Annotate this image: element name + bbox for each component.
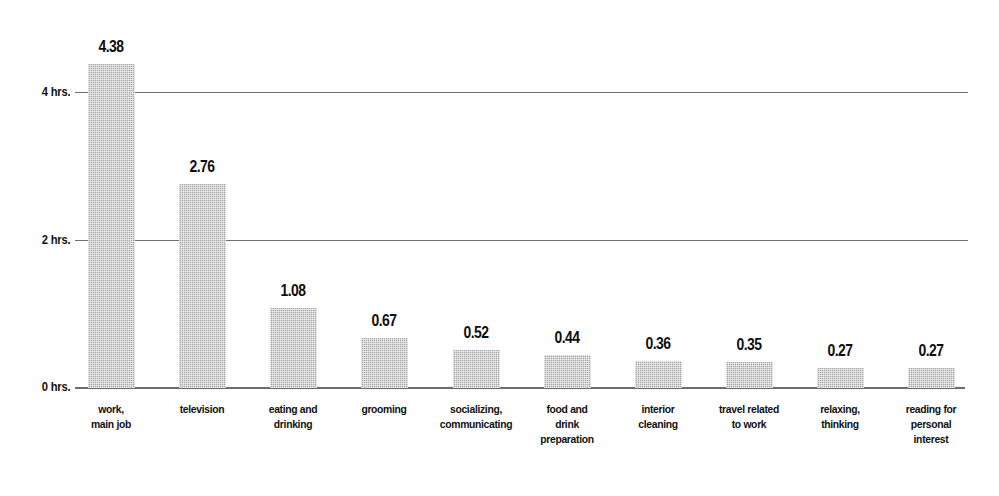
bar xyxy=(453,350,500,388)
ytick-label-2hrs: 2 hrs. xyxy=(41,232,70,247)
category-label-line: main job xyxy=(66,417,156,432)
bar xyxy=(817,368,864,388)
bar xyxy=(726,362,773,388)
gridline-4hrs xyxy=(88,92,968,93)
bar xyxy=(908,368,955,388)
category-label: socializing,communicating xyxy=(431,402,521,432)
bar xyxy=(361,338,408,388)
ytick-label-0hrs: 0 hrs. xyxy=(41,379,70,394)
bar xyxy=(635,361,682,388)
category-label-line: relaxing, xyxy=(795,402,885,417)
category-label-line: grooming xyxy=(339,402,429,417)
bar-value-label: 0.67 xyxy=(345,312,423,330)
bar-value-label: 0.36 xyxy=(619,335,697,353)
bar-chart: 4 hrs. 2 hrs. 0 hrs. 4.38 2.76 1.08 0.67… xyxy=(0,0,999,496)
bar-value-label: 4.38 xyxy=(72,38,150,56)
bar xyxy=(179,184,226,388)
category-label-line: drinking xyxy=(248,417,338,432)
category-label-line: eating and xyxy=(248,402,338,417)
ytick-mark-4 xyxy=(75,92,88,93)
category-label-line: personal xyxy=(886,417,976,432)
bar-value-label: 0.27 xyxy=(801,342,879,360)
category-label: work,main job xyxy=(66,402,156,432)
category-label-line: socializing, xyxy=(431,402,521,417)
category-label: eating anddrinking xyxy=(248,402,338,432)
category-label-line: communicating xyxy=(431,417,521,432)
bar xyxy=(544,355,591,388)
bar-value-label: 0.27 xyxy=(892,342,970,360)
ytick-mark-2 xyxy=(75,240,88,241)
category-label-line: television xyxy=(157,402,247,417)
category-label-line: interior xyxy=(613,402,703,417)
category-label: television xyxy=(157,402,247,417)
category-label: grooming xyxy=(339,402,429,417)
plot-area: 4 hrs. 2 hrs. 0 hrs. 4.38 2.76 1.08 0.67… xyxy=(0,0,999,496)
category-label-line: to work xyxy=(704,417,794,432)
bar xyxy=(88,64,135,388)
bar-value-label: 0.52 xyxy=(437,324,515,342)
category-label-line: thinking xyxy=(795,417,885,432)
category-label-line: cleaning xyxy=(613,417,703,432)
category-label: interiorcleaning xyxy=(613,402,703,432)
ytick-label-4hrs: 4 hrs. xyxy=(41,84,70,99)
category-label-line: food and xyxy=(522,402,612,417)
bar-value-label: 0.44 xyxy=(528,329,606,347)
bar-value-label: 2.76 xyxy=(163,158,241,176)
category-label-line: work, xyxy=(66,402,156,417)
category-label: reading forpersonalinterest xyxy=(886,402,976,447)
bar-value-label: 0.35 xyxy=(710,336,788,354)
ytick-mark-0 xyxy=(75,387,88,388)
bar-value-label: 1.08 xyxy=(254,282,332,300)
category-label: food anddrinkpreparation xyxy=(522,402,612,447)
category-label: travel relatedto work xyxy=(704,402,794,432)
category-label-line: interest xyxy=(886,432,976,447)
category-label-line: reading for xyxy=(886,402,976,417)
category-label-line: preparation xyxy=(522,432,612,447)
category-label-line: travel related xyxy=(704,402,794,417)
category-label-line: drink xyxy=(522,417,612,432)
category-label: relaxing,thinking xyxy=(795,402,885,432)
bar xyxy=(270,308,317,388)
